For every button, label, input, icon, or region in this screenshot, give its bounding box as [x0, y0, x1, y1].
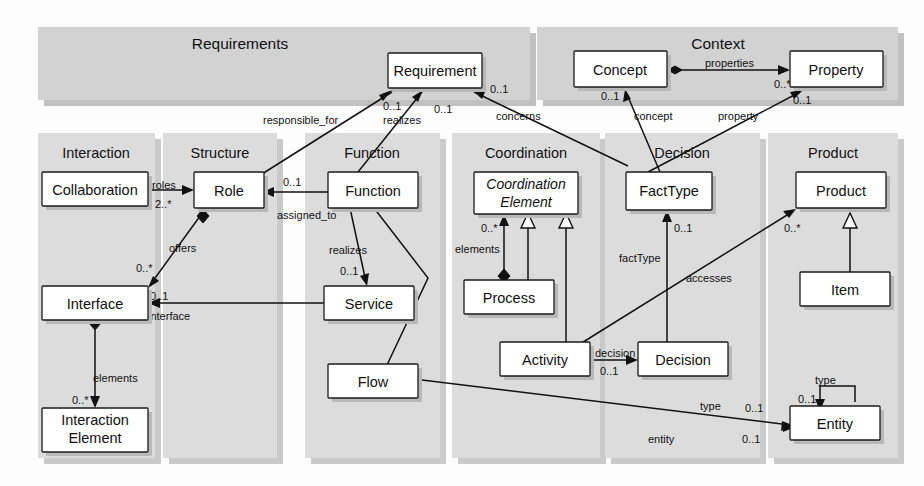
- class-label-decision: Decision: [655, 352, 711, 368]
- column-label-function: Function: [344, 145, 400, 161]
- class-label-property: Property: [809, 62, 865, 78]
- class-box-concept[interactable]: Concept: [574, 51, 671, 91]
- class-label-interface: Interface: [67, 296, 123, 312]
- class-box-entity[interactable]: Entity: [790, 406, 884, 444]
- class-box-coordination-element[interactable]: Coordination Element: [474, 172, 582, 218]
- edge-label-elements-interaction: elements: [93, 372, 138, 384]
- edge-label-type-entity: type: [815, 374, 836, 386]
- column-label-structure: Structure: [191, 145, 250, 161]
- class-label-interaction-element-line1: Interaction: [61, 412, 129, 428]
- multiplicity-roles: 2..*: [155, 198, 172, 210]
- class-box-interaction-element[interactable]: Interaction Element: [42, 408, 152, 456]
- band-label-context: Context: [691, 35, 745, 52]
- class-box-function[interactable]: Function: [328, 172, 422, 212]
- multiplicity-concerns: 0..1: [490, 83, 508, 95]
- column-label-coordination: Coordination: [485, 145, 567, 161]
- multiplicity-entity: 0..1: [742, 433, 760, 445]
- class-label-facttype: FactType: [639, 183, 699, 199]
- edge-label-entity: entity: [648, 433, 675, 445]
- class-box-collaboration[interactable]: Collaboration: [42, 172, 152, 210]
- uml-package-diagram: Requirements Context Interaction Structu…: [0, 0, 924, 486]
- multiplicity-properties: 0..*: [774, 78, 791, 90]
- multiplicity-type-entity: 0..1: [798, 393, 816, 405]
- class-label-item: Item: [831, 282, 859, 298]
- edge-label-assigned-to: assigned_to: [277, 209, 336, 221]
- band-label-requirements: Requirements: [192, 35, 289, 52]
- multiplicity-facttype: 0..1: [674, 222, 692, 234]
- column-label-product: Product: [808, 145, 858, 161]
- class-label-role: Role: [214, 183, 244, 199]
- multiplicity-concept: 0..1: [601, 90, 619, 102]
- edge-label-responsible-for: responsible_for: [263, 114, 339, 126]
- class-label-coordination-element-line1: Coordination: [486, 176, 566, 192]
- multiplicity-accesses: 0..*: [784, 222, 801, 234]
- class-label-requirement: Requirement: [393, 63, 476, 79]
- edge-label-realizes-requirement: realizes: [383, 114, 421, 126]
- class-box-service[interactable]: Service: [324, 286, 418, 324]
- edge-label-properties: properties: [705, 57, 754, 69]
- multiplicity-type-flow: 0..1: [745, 402, 763, 414]
- class-label-process: Process: [483, 290, 535, 306]
- multiplicity-assigned-to: 0..1: [283, 176, 301, 188]
- multiplicity-realizes-requirement: 0..1: [383, 100, 401, 112]
- diagram-canvas: Requirements Context Interaction Structu…: [0, 0, 924, 486]
- column-label-interaction: Interaction: [62, 145, 130, 161]
- multiplicity-elements-interaction: 0..*: [72, 394, 89, 406]
- class-label-activity: Activity: [522, 352, 569, 368]
- multiplicity-realizes-service: 0..1: [340, 265, 358, 277]
- edge-label-concerns: concerns: [496, 110, 541, 122]
- class-label-service: Service: [345, 296, 393, 312]
- class-box-requirement[interactable]: Requirement: [388, 53, 486, 92]
- class-box-property[interactable]: Property: [790, 51, 887, 91]
- multiplicity-offers: 0..*: [136, 262, 153, 274]
- class-label-function: Function: [345, 183, 401, 199]
- class-box-item[interactable]: Item: [800, 272, 894, 310]
- edge-label-interface: interface: [148, 310, 190, 322]
- edge-label-concept: concept: [634, 110, 673, 122]
- edge-label-realizes-service: realizes: [329, 244, 367, 256]
- class-box-activity[interactable]: Activity: [500, 342, 594, 380]
- multiplicity-property: 0..1: [793, 94, 811, 106]
- class-box-interface[interactable]: Interface: [42, 286, 152, 324]
- column-label-decision: Decision: [654, 145, 710, 161]
- edge-label-facttype: factType: [619, 252, 661, 264]
- class-box-process[interactable]: Process: [464, 280, 558, 318]
- edge-label-offers: offers: [169, 242, 197, 254]
- multiplicity-decision: 0..1: [600, 365, 618, 377]
- multiplicity-responsible-for: 0..1: [434, 103, 452, 115]
- class-label-flow: Flow: [358, 374, 389, 390]
- class-label-coordination-element-line2: Element: [500, 194, 552, 210]
- class-label-entity: Entity: [817, 416, 854, 432]
- edge-label-type-flow: type: [700, 400, 721, 412]
- class-box-flow[interactable]: Flow: [328, 364, 422, 402]
- class-box-role[interactable]: Role: [194, 172, 268, 212]
- edge-label-accesses: accesses: [686, 272, 732, 284]
- class-label-collaboration: Collaboration: [52, 182, 137, 198]
- class-box-product[interactable]: Product: [796, 172, 890, 212]
- class-label-interaction-element-line2: Element: [68, 430, 121, 446]
- class-box-decision[interactable]: Decision: [638, 342, 732, 380]
- edge-label-roles: roles: [152, 179, 176, 191]
- class-label-concept: Concept: [593, 62, 647, 78]
- class-box-facttype[interactable]: FactType: [626, 172, 716, 214]
- edge-label-property: property: [718, 110, 759, 122]
- multiplicity-elements-coordination: 0..*: [481, 222, 498, 234]
- edge-label-elements-coordination: elements: [455, 243, 500, 255]
- edge-label-decision: decision: [595, 347, 635, 359]
- class-label-product: Product: [816, 183, 866, 199]
- multiplicity-interface: 0..1: [150, 290, 168, 302]
